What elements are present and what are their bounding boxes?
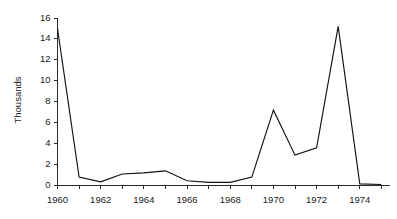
y-axis-tick-label: 0 — [45, 179, 50, 190]
y-axis-tick-label: 10 — [40, 74, 51, 85]
y-axis-tick-label: 4 — [45, 137, 50, 148]
x-axis-tick-label: 1972 — [306, 194, 327, 205]
y-axis-tick-label: 12 — [40, 53, 51, 64]
y-axis-title: Thousands — [12, 76, 23, 123]
x-axis-tick-label: 1970 — [263, 194, 284, 205]
chart-canvas: 0246810121416 19601962196419661968197019… — [0, 0, 397, 219]
y-axis-tick-label: 14 — [40, 32, 51, 43]
x-axis-tick-label: 1960 — [47, 194, 68, 205]
x-axis-tick-label: 1962 — [90, 194, 111, 205]
line-chart-figure: 0246810121416 19601962196419661968197019… — [0, 0, 397, 219]
y-axis-tick-label: 8 — [45, 95, 50, 106]
x-axis-tick-label: 1966 — [176, 194, 197, 205]
y-axis-tick-label: 2 — [45, 158, 50, 169]
x-axis-tick-label: 1968 — [220, 194, 241, 205]
x-axis-tick-label: 1974 — [349, 194, 370, 205]
y-axis-tick-label: 6 — [45, 116, 50, 127]
y-axis-tick-label: 16 — [40, 12, 51, 23]
x-axis-tick-label: 1964 — [133, 194, 154, 205]
